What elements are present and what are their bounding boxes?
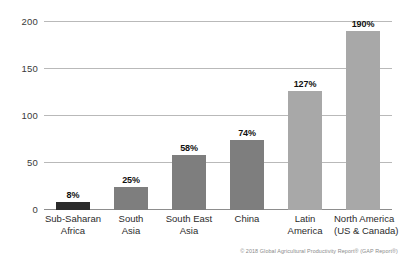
bar[interactable] [230, 140, 264, 210]
y-axis-tick-label: 150 [22, 63, 38, 74]
bar-value-label: 8% [67, 190, 80, 200]
x-axis-label-line: Asia [102, 225, 160, 237]
y-axis-tick-label: 200 [22, 16, 38, 27]
bar-group: 58% [160, 22, 218, 210]
bar-value-label: 190% [352, 19, 375, 29]
bar[interactable] [114, 187, 148, 211]
x-axis-label-line: (US & Canada) [334, 225, 392, 237]
bar-group: 25% [102, 22, 160, 210]
x-axis-label-line: Africa [44, 225, 102, 237]
bar-group: 190% [334, 22, 392, 210]
bar-value-label: 25% [122, 175, 140, 185]
bar-group: 127% [276, 22, 334, 210]
x-axis-category-label: South EastAsia [160, 213, 218, 236]
copyright-credit: © 2018 Global Agricultural Productivity … [240, 248, 398, 254]
bar[interactable] [288, 91, 322, 210]
bar[interactable] [172, 155, 206, 210]
bar-group: 74% [218, 22, 276, 210]
bar-value-label: 127% [294, 79, 317, 89]
bars: 8%25%58%74%127%190% [44, 22, 392, 210]
x-axis-label-line: Latin [276, 213, 334, 225]
x-axis-label-line: America [276, 225, 334, 237]
bar-value-label: 74% [238, 128, 256, 138]
x-axis-label-line: South [102, 213, 160, 225]
bar-group: 8% [44, 22, 102, 210]
bar[interactable] [56, 202, 90, 210]
x-axis-category-label: SouthAsia [102, 213, 160, 236]
x-axis-category-label: Sub-SaharanAfrica [44, 213, 102, 236]
x-axis-category-label: North America(US & Canada) [334, 213, 392, 236]
y-axis-tick-label: 0 [33, 204, 38, 215]
bar-chart: 050100150200 8%25%58%74%127%190% Sub-Sah… [0, 0, 408, 260]
x-axis-label-line: North America [334, 213, 392, 225]
x-axis-category-label: China [218, 213, 276, 225]
x-axis-labels: Sub-SaharanAfricaSouthAsiaSouth EastAsia… [44, 213, 392, 247]
x-axis-label-line: South East [160, 213, 218, 225]
x-axis-label-line: China [218, 213, 276, 225]
y-axis-tick-label: 100 [22, 110, 38, 121]
bar[interactable] [346, 31, 380, 210]
x-axis-label-line: Asia [160, 225, 218, 237]
y-axis-tick-label: 50 [27, 157, 38, 168]
plot-area: 050100150200 8%25%58%74%127%190% [44, 22, 392, 210]
x-axis-label-line: Sub-Saharan [44, 213, 102, 225]
x-axis-category-label: LatinAmerica [276, 213, 334, 236]
bar-value-label: 58% [180, 143, 198, 153]
